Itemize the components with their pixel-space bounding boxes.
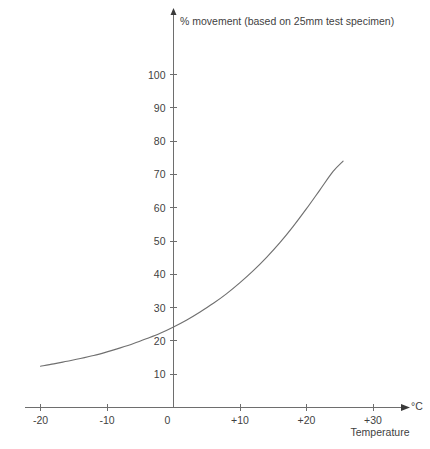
x-tick-label: +20 <box>298 415 316 426</box>
x-axis-title: Temperature <box>351 426 410 438</box>
x-tick-label: -20 <box>33 415 48 426</box>
temperature-movement-chart: 102030405060708090100 -20-100+10+20+30 %… <box>0 0 430 449</box>
y-axis-arrowhead <box>171 8 177 15</box>
x-tick-label: +30 <box>364 415 382 426</box>
y-tick-label: 70 <box>118 169 166 180</box>
y-tick-label: 50 <box>118 236 166 247</box>
y-tick-label: 100 <box>118 69 166 80</box>
y-tick-label: 60 <box>118 202 166 213</box>
x-axis-arrowhead <box>401 404 410 411</box>
x-axis-group <box>25 404 410 411</box>
x-tick-label: 0 <box>165 415 171 426</box>
chart-plot-area <box>0 0 430 449</box>
x-axis-unit-label: °C <box>411 400 423 412</box>
y-tick-label: 90 <box>118 102 166 113</box>
y-axis-title: % movement (based on 25mm test specimen) <box>180 15 394 28</box>
movement-curve <box>41 161 344 366</box>
y-tick-label: 30 <box>118 302 166 313</box>
x-tick-label: -10 <box>99 415 114 426</box>
y-tick-label: 80 <box>118 136 166 147</box>
y-tick-label: 10 <box>118 369 166 380</box>
y-tick-label: 20 <box>118 335 166 346</box>
x-tick-label: +10 <box>231 415 249 426</box>
y-tick-label: 40 <box>118 269 166 280</box>
